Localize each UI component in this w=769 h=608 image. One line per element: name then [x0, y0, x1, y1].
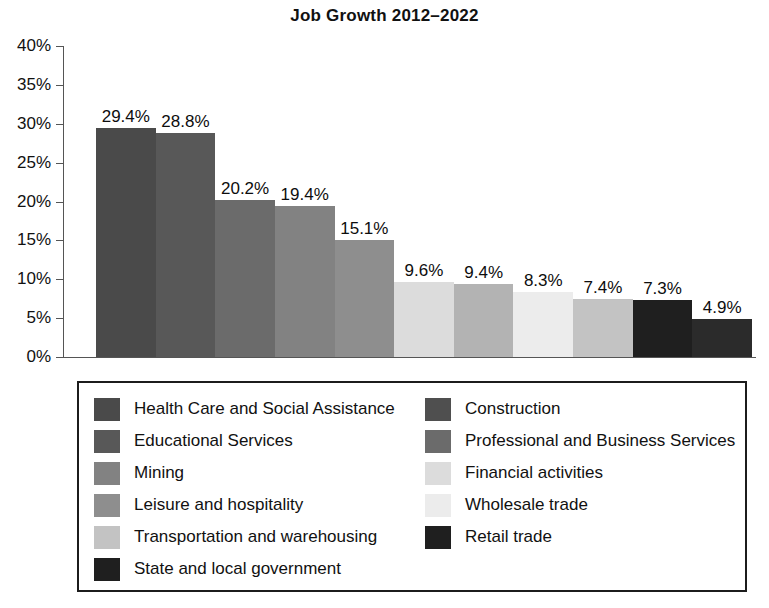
legend-item-label: Wholesale trade	[465, 495, 588, 515]
bar-value-label: 7.3%	[627, 279, 699, 299]
legend-columns: Health Care and Social AssistanceEducati…	[79, 383, 745, 590]
legend-color-swatch	[94, 526, 120, 549]
chart-title: Job Growth 2012–2022	[0, 6, 769, 26]
legend-item-label: Financial activities	[465, 463, 603, 483]
bar[interactable]	[573, 299, 633, 357]
legend-item[interactable]: Financial activities	[425, 457, 745, 489]
legend-item[interactable]: Health Care and Social Assistance	[94, 393, 415, 425]
bar[interactable]	[215, 200, 275, 357]
legend-item[interactable]: Mining	[94, 457, 415, 489]
legend-column: ConstructionProfessional and Business Se…	[415, 383, 745, 590]
legend-item-label: Health Care and Social Assistance	[134, 399, 395, 419]
legend-item-label: State and local government	[134, 559, 341, 579]
bars-layer: 29.4%28.8%20.2%19.4%15.1%9.6%9.4%8.3%7.4…	[0, 38, 769, 368]
bar[interactable]	[96, 128, 156, 357]
bar-value-label: 15.1%	[329, 219, 401, 239]
legend-item[interactable]: Educational Services	[94, 425, 415, 457]
legend-item[interactable]: Retail trade	[425, 521, 745, 553]
bar[interactable]	[156, 133, 216, 357]
legend-color-swatch	[425, 398, 451, 421]
bar[interactable]	[513, 292, 573, 357]
legend-color-swatch	[425, 430, 451, 453]
legend-item[interactable]: Wholesale trade	[425, 489, 745, 521]
plot-area: 40%35%30%25%20%15%10%5%0% 29.4%28.8%20.2…	[0, 38, 769, 368]
legend-color-swatch	[94, 398, 120, 421]
legend-color-swatch	[94, 558, 120, 581]
legend-column: Health Care and Social AssistanceEducati…	[79, 383, 415, 590]
legend-item[interactable]: Construction	[425, 393, 745, 425]
legend-item[interactable]: Leisure and hospitality	[94, 489, 415, 521]
bar-value-label: 4.9%	[686, 298, 758, 318]
legend-color-swatch	[425, 526, 451, 549]
legend-item-label: Leisure and hospitality	[134, 495, 303, 515]
bar[interactable]	[394, 282, 454, 357]
bar[interactable]	[454, 284, 514, 357]
legend-color-swatch	[94, 462, 120, 485]
legend-item[interactable]: Professional and Business Services	[425, 425, 745, 457]
bar-value-label: 28.8%	[150, 112, 222, 132]
legend-item-label: Transportation and warehousing	[134, 527, 377, 547]
bar[interactable]	[275, 206, 335, 357]
legend-color-swatch	[94, 494, 120, 517]
legend-color-swatch	[94, 430, 120, 453]
legend-item[interactable]: State and local government	[94, 553, 415, 585]
legend-color-swatch	[425, 462, 451, 485]
legend-item-label: Retail trade	[465, 527, 552, 547]
legend-color-swatch	[425, 494, 451, 517]
legend-item[interactable]: Transportation and warehousing	[94, 521, 415, 553]
legend-item-label: Mining	[134, 463, 184, 483]
bar[interactable]	[335, 240, 395, 357]
bar-value-label: 19.4%	[269, 185, 341, 205]
bar[interactable]	[633, 300, 693, 357]
bar[interactable]	[692, 319, 752, 357]
legend-item-label: Professional and Business Services	[465, 431, 735, 451]
legend-item-label: Construction	[465, 399, 560, 419]
legend-item-label: Educational Services	[134, 431, 293, 451]
legend: Health Care and Social AssistanceEducati…	[77, 381, 747, 592]
